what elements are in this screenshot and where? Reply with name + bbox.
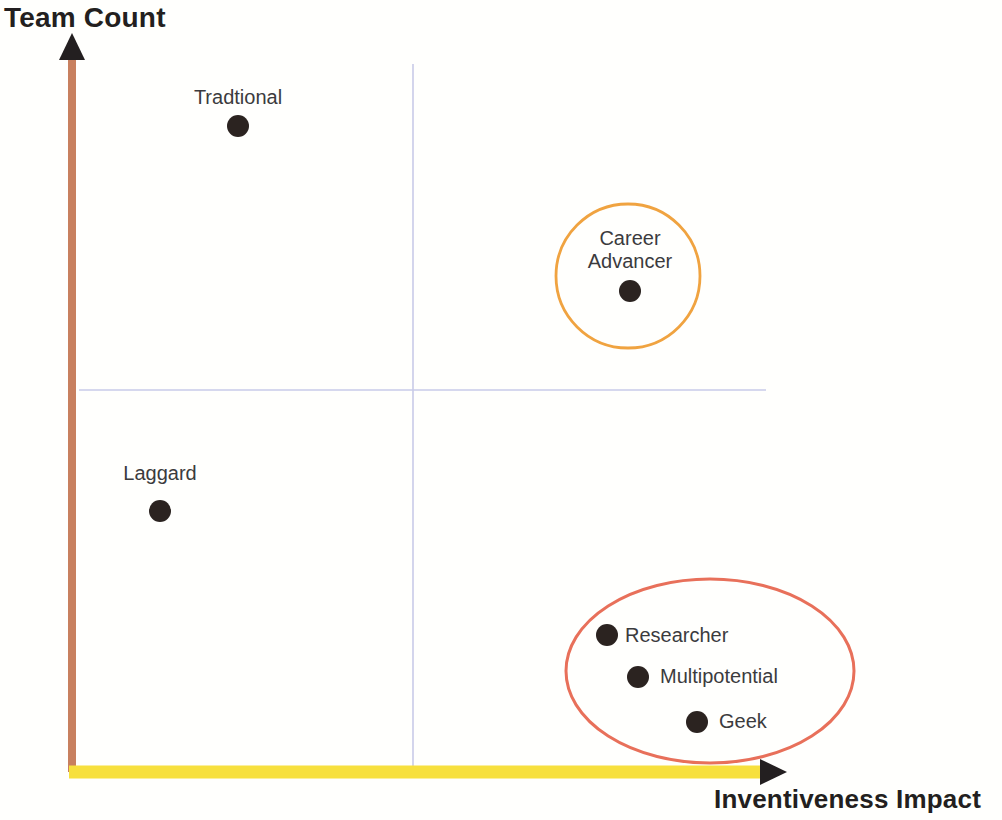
- y-axis-arrowhead: [59, 33, 85, 60]
- quadrant-chart-canvas: Team Count Inventiveness Impact Tradtion…: [0, 0, 1002, 820]
- data-point-multipotential[interactable]: [627, 666, 649, 688]
- label-researcher: Researcher: [625, 624, 728, 647]
- data-point-laggard[interactable]: [149, 500, 171, 522]
- career-advancer-highlight-circle: [556, 204, 700, 348]
- data-point-tradtional[interactable]: [227, 115, 249, 137]
- label-laggard: Laggard: [123, 462, 196, 485]
- label-tradtional: Tradtional: [194, 86, 282, 109]
- data-point-geek[interactable]: [686, 711, 708, 733]
- chart-plot-area: [0, 0, 1002, 820]
- data-point-researcher[interactable]: [596, 624, 618, 646]
- label-multipotential: Multipotential: [660, 665, 778, 688]
- x-axis-title: Inventiveness Impact: [714, 784, 981, 815]
- data-point-career-advancer[interactable]: [619, 280, 641, 302]
- label-geek: Geek: [719, 710, 767, 733]
- label-career-advancer: Career Advancer: [588, 227, 673, 273]
- label-career-advancer-line2: Advancer: [588, 250, 673, 273]
- x-axis-arrowhead: [760, 759, 787, 785]
- label-career-advancer-line1: Career: [588, 227, 673, 250]
- y-axis-title: Team Count: [4, 2, 166, 34]
